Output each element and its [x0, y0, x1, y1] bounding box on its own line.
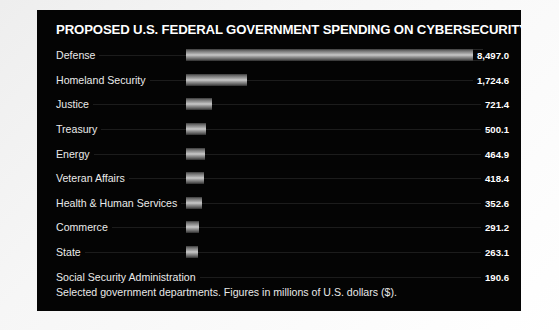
bar-track [186, 264, 483, 289]
bar-row: Treasury500.1 [37, 117, 521, 142]
bar-track [186, 43, 483, 68]
bar-chart: Defense8,497.0Homeland Security1,724.6Ju… [37, 43, 521, 265]
bar-track [186, 191, 483, 216]
bar-row: Energy464.9 [37, 141, 521, 166]
bar [186, 172, 204, 184]
bar-value-label: 1,724.6 [473, 74, 509, 85]
page-background: PROPOSED U.S. FEDERAL GOVERNMENT SPENDIN… [0, 0, 559, 330]
bar-row: Commerce291.2 [37, 215, 521, 240]
bar-category-label: Veteran Affairs [56, 172, 129, 184]
bar [186, 49, 483, 61]
bar-category-label: State [56, 246, 85, 258]
bar-track [186, 215, 483, 240]
bar-category-label: Health & Human Services [56, 197, 181, 209]
bar [186, 246, 198, 258]
bar-value-label: 418.4 [481, 173, 509, 184]
bar-value-label: 190.6 [481, 271, 509, 282]
bar-value-label: 500.1 [481, 124, 509, 135]
bar [186, 148, 205, 160]
bar-category-label: Defense [56, 49, 99, 61]
bar-category-label: Social Security Administration [56, 271, 200, 283]
page-title: PROPOSED U.S. FEDERAL GOVERNMENT SPENDIN… [56, 22, 508, 37]
bar-category-label: Homeland Security [56, 74, 150, 86]
bar [186, 98, 212, 110]
bar-track [186, 141, 483, 166]
bar-track [186, 92, 483, 117]
bar-value-label: 263.1 [481, 247, 509, 258]
bar-category-label: Treasury [56, 123, 101, 135]
bar-track [186, 68, 483, 93]
bar-track [186, 117, 483, 142]
bar-category-label: Commerce [56, 221, 112, 233]
bar-value-label: 352.6 [481, 197, 509, 208]
bar [186, 197, 202, 209]
bar-row: Homeland Security1,724.6 [37, 68, 521, 93]
bar-category-label: Justice [56, 98, 93, 110]
bar [186, 74, 247, 86]
bar-row: State263.1 [37, 240, 521, 265]
bar-value-label: 8,497.0 [473, 50, 509, 61]
bar-value-label: 291.2 [481, 222, 509, 233]
bar [186, 221, 199, 233]
bar-value-label: 721.4 [481, 99, 509, 110]
bar-category-label: Energy [56, 148, 94, 160]
bar-row: Defense8,497.0 [37, 43, 521, 68]
bar-row: Veteran Affairs418.4 [37, 166, 521, 191]
bar-track [186, 240, 483, 265]
bar [186, 123, 206, 135]
bar-row: Justice721.4 [37, 92, 521, 117]
bar-row: Health & Human Services352.6 [37, 191, 521, 216]
chart-panel: PROPOSED U.S. FEDERAL GOVERNMENT SPENDIN… [37, 10, 521, 311]
bar-track [186, 166, 483, 191]
bar-value-label: 464.9 [481, 148, 509, 159]
